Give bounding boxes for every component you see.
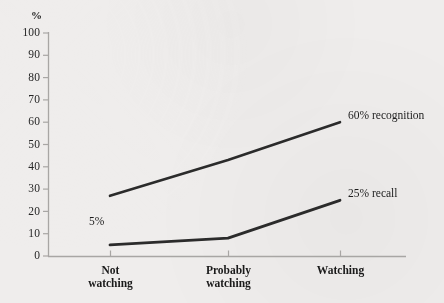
x-tick-label-not-watching: Not watching	[60, 264, 161, 290]
x-tick-label-watching: Watching	[290, 264, 391, 277]
data-label-recall-start: 5%	[89, 215, 104, 227]
y-tick-label-30: 30	[2, 183, 40, 195]
y-tick-label-0: 0	[2, 250, 40, 262]
y-tick-label-100: 100	[2, 27, 40, 39]
y-axis-unit-label: %	[31, 10, 42, 21]
x-tick-label-line-2: watching	[176, 277, 281, 290]
y-tick-label-20: 20	[2, 206, 40, 218]
x-tick-label-line-2: watching	[60, 277, 161, 290]
y-tick-label-40: 40	[2, 161, 40, 173]
y-tick-label-60: 60	[2, 116, 40, 128]
x-tick-label-line-1: Probably	[176, 264, 281, 277]
series-line-recognition	[110, 122, 340, 196]
y-axis-ticks	[43, 33, 49, 256]
x-axis-ticks	[111, 251, 341, 257]
y-tick-label-10: 10	[2, 228, 40, 240]
line-chart-figure: % 100 90 80 70 60 50 40 30 20 10 0 Not w…	[0, 0, 444, 303]
series-label-recognition: 60% recognition	[348, 109, 424, 121]
y-tick-label-70: 70	[2, 94, 40, 106]
x-tick-label-probably-watching: Probably watching	[176, 264, 281, 290]
y-tick-label-80: 80	[2, 72, 40, 84]
chart-plot-area	[0, 0, 444, 303]
x-tick-label-line-1: Not	[60, 264, 161, 277]
series-label-recall: 25% recall	[348, 187, 398, 199]
y-tick-label-90: 90	[2, 49, 40, 61]
series-line-recall	[110, 200, 340, 245]
x-tick-label-line-1: Watching	[290, 264, 391, 277]
y-tick-label-50: 50	[2, 139, 40, 151]
